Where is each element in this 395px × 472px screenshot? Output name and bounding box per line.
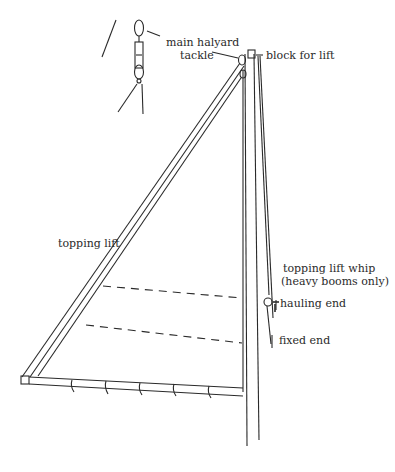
label-hauling-end: hauling end [280,298,346,310]
reef-line-upper [103,286,242,298]
label-block-for-lift: block for lift [266,50,334,62]
mast [245,50,259,446]
boom [21,376,243,396]
label-topping-lift-whip-line2: (heavy booms only) [281,276,389,288]
rigging-diagram: main halyard tackle block for lift toppi… [0,0,395,472]
label-topping-lift-whip-line1: topping lift whip [283,263,375,275]
label-main-halyard-line1: main halyard [166,37,239,49]
halyard-tackle-detail [102,20,144,114]
reef-line-lower [86,325,242,343]
diagram-drawing [0,0,395,472]
label-main-halyard-line2: tackle [180,50,214,62]
label-fixed-end: fixed end [279,335,330,347]
leader-main-halyard-inset [147,31,160,36]
label-topping-lift: topping lift [58,238,120,250]
topping-lift-whip-line [258,56,273,344]
leader-main-halyard-block [212,52,238,58]
